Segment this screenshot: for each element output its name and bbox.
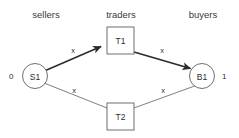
node-t1[interactable]: T1 [107,27,134,54]
column-heading-traders: traders [106,9,136,20]
node-label-s1: S1 [30,72,41,82]
node-s1[interactable]: S1 [23,64,48,89]
edge-label-s1-t1: x [71,46,75,55]
node-t2[interactable]: T2 [107,103,134,130]
market-network-diagram: sellers traders buyers x x x x S1 T1 [0,0,239,138]
column-heading-buyers: buyers [189,9,218,20]
edge-label-t2-b1: x [161,86,165,95]
seller-value-label: 0 [9,72,14,81]
diagram-canvas: sellers traders buyers x x x x S1 T1 [0,0,239,138]
edge-t2-b1 [134,86,196,109]
node-label-b1: B1 [197,72,208,82]
edge-group [44,47,196,109]
node-label-t1: T1 [116,36,126,46]
column-heading-sellers: sellers [32,9,60,20]
node-b1[interactable]: B1 [190,64,215,89]
edge-label-s1-t2: x [72,86,76,95]
node-label-t2: T2 [116,112,126,122]
edge-label-t1-b1: x [160,46,164,55]
buyer-value-label: 1 [222,72,227,81]
